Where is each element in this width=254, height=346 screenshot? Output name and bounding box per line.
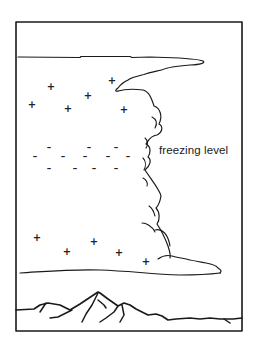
positive-charge-icon: +: [63, 247, 71, 257]
positive-charge-icon: +: [64, 104, 72, 114]
negative-charge-icon: –: [106, 152, 111, 161]
negative-charge-icon: –: [33, 152, 38, 161]
positive-charge-icon: +: [47, 82, 55, 92]
negative-charge-icon: –: [83, 152, 88, 161]
positive-charge-icon: +: [142, 257, 150, 267]
positive-charge-icon: +: [90, 237, 98, 247]
mountain-range: [16, 292, 242, 320]
negative-charge-icon: –: [114, 164, 119, 173]
negative-charge-icon: –: [126, 152, 131, 161]
freezing-level-label: freezing level: [159, 144, 228, 156]
positive-charge-icon: +: [84, 91, 92, 101]
positive-charge-icon: +: [33, 233, 41, 243]
negative-charge-icon: –: [92, 164, 97, 173]
positive-charge-icon: +: [28, 100, 36, 110]
negative-charge-icon: –: [47, 143, 52, 152]
negative-charge-icon: –: [61, 152, 66, 161]
negative-charge-icon: –: [114, 143, 119, 152]
positive-charge-icon: +: [108, 76, 116, 86]
negative-charge-icon: –: [47, 164, 52, 173]
cloud-base-lobe: [158, 256, 221, 273]
positive-charge-icon: +: [120, 105, 128, 115]
thunderstorm-diagram: [0, 0, 254, 346]
cloud-base-line: [20, 270, 220, 275]
cloud-billow-lines: [142, 117, 170, 246]
diagram-frame: [16, 22, 242, 331]
negative-charge-icon: –: [73, 164, 78, 173]
positive-charge-icon: +: [115, 248, 123, 258]
